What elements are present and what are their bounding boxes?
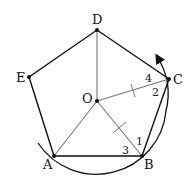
label-o: O <box>82 91 93 106</box>
angle-label-1: 1 <box>136 135 143 148</box>
label-a: A <box>42 157 53 172</box>
angle-label-3: 3 <box>122 144 129 157</box>
angle-label-2: 2 <box>152 86 159 99</box>
vertex-e-dot <box>27 75 31 79</box>
vertex-d-dot <box>95 28 99 32</box>
label-b: B <box>144 157 154 172</box>
vertex-a-dot <box>52 154 56 158</box>
vertex-c-dot <box>167 77 171 81</box>
label-d: D <box>92 12 102 27</box>
center-o-dot <box>95 99 99 103</box>
pentagon-diagram: A B C D E O 1 2 3 4 <box>0 0 193 185</box>
label-c: C <box>173 72 183 87</box>
angle-label-4: 4 <box>145 72 152 85</box>
label-e: E <box>16 70 26 85</box>
radius-oa <box>54 101 97 156</box>
pentagon <box>29 30 169 156</box>
